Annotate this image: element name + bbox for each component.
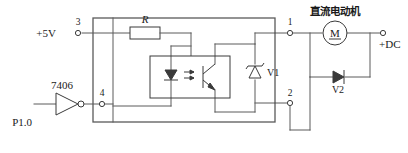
diode-icon [333, 70, 344, 84]
flyback-diode-label: V2 [332, 84, 344, 95]
inverting-bubble-icon [78, 101, 84, 107]
node-2-label: 2 [288, 88, 293, 98]
inverter-triangle-icon [56, 93, 78, 115]
terminal-dc-supply[interactable] [380, 30, 385, 35]
circuit-schematic-svg: +5V 3 R 7406 P1.0 4 V1 1 2 直流电动机 M +DC V… [0, 0, 408, 153]
terminal-node-3[interactable] [75, 30, 80, 35]
node-3-label: 3 [76, 17, 81, 27]
dc-supply-label: +DC [379, 38, 400, 50]
terminal-node-1[interactable] [287, 30, 292, 35]
motor-caption: 直流电动机 [310, 5, 361, 17]
terminal-node-4[interactable] [99, 101, 104, 106]
inverter-type-label: 7406 [51, 79, 74, 91]
circuit-diagram-canvas: +5V 3 R 7406 P1.0 4 V1 1 2 直流电动机 M +DC V… [0, 0, 408, 153]
terminal-node-2[interactable] [287, 100, 292, 105]
port-pin-label: P1.0 [12, 116, 32, 128]
node-1-label: 1 [288, 17, 293, 27]
resistor-icon [130, 27, 160, 39]
resistor-label: R [141, 13, 149, 25]
zener-diode-icon [246, 63, 264, 78]
supply-label: +5V [36, 27, 56, 39]
motor-symbol-label: M [330, 27, 340, 39]
zener-label: V1 [267, 67, 279, 78]
node-4-label: 4 [100, 88, 105, 98]
